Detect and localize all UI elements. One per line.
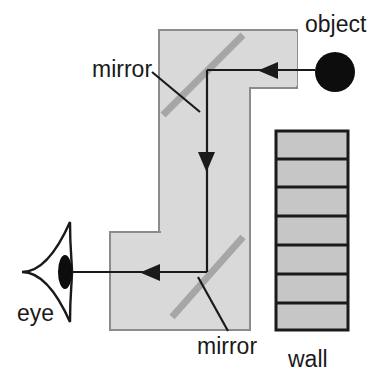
wall-block (276, 131, 348, 330)
label-eye: eye (17, 300, 54, 326)
label-mirror-bottom: mirror (197, 333, 257, 359)
label-object: object (305, 11, 367, 37)
object-source (315, 52, 355, 92)
pupil (58, 255, 72, 289)
optics-diagram-canvas: object mirror mirror eye wall (0, 0, 382, 375)
diagram-svg: object mirror mirror eye wall (0, 0, 382, 375)
label-mirror-top: mirror (92, 56, 152, 82)
label-wall: wall (287, 346, 328, 372)
